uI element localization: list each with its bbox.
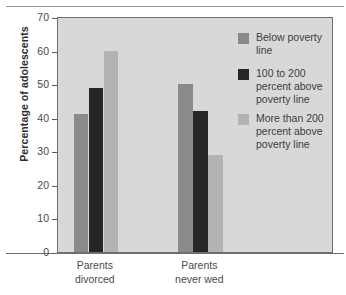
y-axis-tick: 40 [0, 119, 57, 120]
legend-label-line3: poverty line [256, 93, 334, 106]
legend-label: 100 to 200percent abovepoverty line [256, 67, 334, 106]
legend-label-line1: More than 200 [256, 112, 334, 125]
y-axis-tick: 0 [0, 253, 57, 254]
y-axis-tick-mark [52, 119, 57, 120]
legend-label-line3: poverty line [256, 138, 334, 151]
y-axis-tick-mark [52, 253, 57, 254]
y-axis-tick-mark [52, 186, 57, 187]
bar [193, 111, 208, 252]
bar [89, 88, 104, 253]
y-axis-tick-mark [52, 152, 57, 153]
bar [178, 84, 193, 252]
legend-label-line1: Below poverty [256, 31, 334, 44]
y-axis-tick-label: 40 [37, 112, 49, 124]
y-axis-tick-mark [52, 85, 57, 86]
legend-label-line2: line [256, 44, 334, 57]
legend-color-swatch [238, 114, 249, 125]
legend-color-swatch [238, 69, 249, 80]
y-axis-tick-mark [52, 18, 57, 19]
legend-label-line1: 100 to 200 [256, 67, 334, 80]
legend-label-line2: percent above [256, 80, 334, 93]
y-axis-tick: 60 [0, 52, 57, 53]
y-axis-tick-label: 60 [37, 45, 49, 57]
y-axis-tick: 20 [0, 186, 57, 187]
x-axis-label-line2: never wed [139, 273, 259, 287]
y-axis-tick: 30 [0, 152, 57, 153]
y-axis-tick-mark [52, 52, 57, 53]
top-divider-rule [6, 6, 344, 7]
y-axis-tick-label: 0 [43, 246, 49, 258]
bar [74, 114, 89, 252]
y-axis-tick-mark [52, 219, 57, 220]
y-axis-tick: 50 [0, 85, 57, 86]
x-axis-label: Parentsnever wed [139, 259, 259, 286]
y-axis-tick-label: 30 [37, 145, 49, 157]
x-axis-label: Parentsdivorced [35, 259, 155, 286]
y-axis-tick: 70 [0, 18, 57, 19]
x-axis-label-line2: divorced [35, 273, 155, 287]
y-axis-tick-label: 70 [37, 11, 49, 23]
x-axis-label-line1: Parents [77, 259, 113, 271]
y-axis-tick-label: 20 [37, 179, 49, 191]
bar [208, 155, 223, 252]
legend-label: More than 200percent abovepoverty line [256, 112, 334, 151]
x-axis-label-line1: Parents [181, 259, 217, 271]
legend-label-line2: percent above [256, 125, 334, 138]
y-axis-tick-label: 50 [37, 78, 49, 90]
bar [104, 51, 119, 252]
legend-color-swatch [238, 33, 249, 44]
legend-label: Below povertyline [256, 31, 334, 57]
y-axis-tick: 10 [0, 219, 57, 220]
bar-chart-figure: Percentage of adolescents 70605040302010… [0, 0, 346, 295]
y-axis-tick-label: 10 [37, 212, 49, 224]
y-axis-title: Percentage of adolescents [18, 0, 30, 194]
